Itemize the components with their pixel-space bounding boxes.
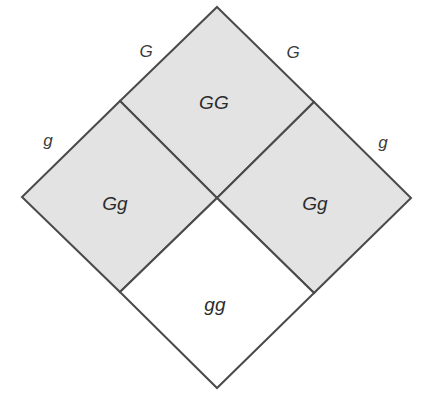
cell-label-gg-dominant: GG — [199, 92, 229, 114]
cell-label-gg-recessive: gg — [204, 294, 226, 316]
allele-label-bottom-right: g — [378, 133, 387, 153]
allele-label-bottom-left: g — [43, 131, 52, 151]
punnett-square-svg — [0, 0, 426, 406]
cell-label-gg-het-right: Gg — [302, 193, 328, 215]
punnett-square-diagram: GG Gg Gg gg G G g g — [0, 0, 426, 406]
cell-label-gg-het-left: Gg — [102, 193, 128, 215]
allele-label-top-right: G — [286, 43, 299, 63]
allele-label-top-left: G — [139, 42, 152, 62]
